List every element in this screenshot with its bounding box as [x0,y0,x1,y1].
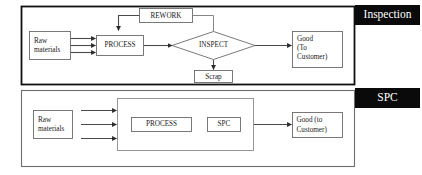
node-inspect-label: INSPECT [199,41,229,49]
node-process-label: PROCESS [104,41,135,49]
diagram-canvas: REWORK Raw materials PROCESS INSPECT [0,0,422,175]
node-spc-label: SPC [218,120,231,128]
node-process-2: PROCESS [132,118,192,132]
node-spc: SPC [208,118,241,132]
banner-spc-label: SPC [377,91,398,103]
node-good-to-customer-2-label-line2: Customer) [297,126,328,134]
node-process: PROCESS [97,36,144,56]
node-raw-materials-2-label-line2: materials [38,125,65,133]
node-good-to-customer-label-line1: Good [297,35,313,43]
node-good-to-customer: Good (To Customer) [293,32,343,68]
node-good-to-customer-2: Good (to Customer) [293,113,343,138]
node-raw-materials: Raw materials [30,32,71,60]
node-scrap: Scrap [195,71,233,83]
process-flow-diagram: REWORK Raw materials PROCESS INSPECT [0,0,422,175]
node-raw-materials-label-line2: materials [34,46,61,54]
panel-spc: Raw materials PROCESS SPC Good (to Custo… [22,88,421,167]
panel-inspection: REWORK Raw materials PROCESS INSPECT [22,5,421,85]
node-raw-materials-2-label-line1: Raw [38,116,52,124]
banner-spc: SPC [355,88,420,108]
node-raw-materials-label-line1: Raw [34,37,48,45]
node-process-2-label: PROCESS [146,120,177,128]
node-rework-label: REWORK [150,12,182,20]
node-good-to-customer-label-line3: Customer) [297,53,328,61]
node-good-to-customer-label-line2: (To [297,44,307,52]
node-scrap-label: Scrap [205,73,222,81]
node-rework: REWORK [140,9,193,23]
banner-inspection-label: Inspection [364,8,412,21]
node-good-to-customer-2-label-line1: Good (to [297,116,323,124]
node-raw-materials-2: Raw materials [34,111,73,139]
banner-inspection: Inspection [355,5,420,25]
